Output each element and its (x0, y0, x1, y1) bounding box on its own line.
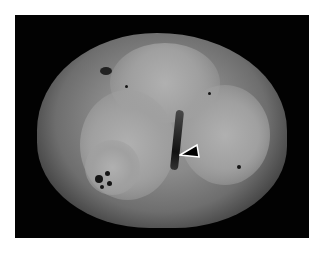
arrowhead-annotation-icon (179, 143, 201, 159)
dark-spot (107, 181, 112, 186)
dark-spot (100, 185, 104, 189)
dark-spot (125, 85, 128, 88)
dark-spot (105, 171, 110, 176)
tissue-lobe-lower-left (85, 140, 140, 195)
dark-spot (237, 165, 241, 169)
dark-spot (100, 67, 112, 75)
dark-spot (95, 175, 103, 183)
specimen-photo (15, 15, 309, 238)
tissue-lobe-right (180, 85, 270, 185)
dark-spot (208, 92, 211, 95)
